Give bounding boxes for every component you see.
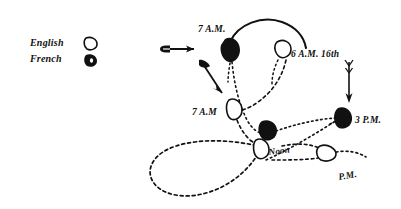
legend-label-french: French (29, 53, 62, 64)
fleet-track-diagram: English French (0, 0, 401, 209)
label-3pm: 3 P.M. (354, 115, 381, 125)
marker-english-7am (227, 99, 242, 119)
marker-english-pm (317, 145, 336, 161)
label-6am-16th: 6 A.M. 16th (291, 49, 339, 59)
legend-label-english: English (29, 37, 64, 48)
marker-english-noon (254, 139, 269, 158)
label-7am-middle: 7 A.M (192, 107, 217, 117)
marker-english-6am-16th (275, 40, 291, 57)
filled-marker-highlight (90, 58, 93, 62)
label-7am-upper: 7 A.M. (198, 24, 226, 34)
open-marker-icon (84, 37, 97, 49)
